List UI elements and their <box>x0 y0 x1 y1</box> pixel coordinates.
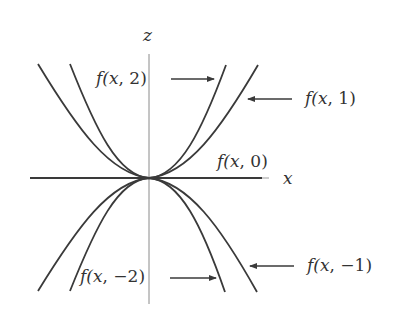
z-label-text: z <box>143 25 152 45</box>
label-f-x-0: f(x, 0) <box>217 153 268 170</box>
z-axis-label: z <box>143 27 152 44</box>
label-f-x-1-var: x <box>318 88 328 108</box>
label-f-x-minus-2-post: , −2) <box>103 266 146 286</box>
label-f-x-0-pre: f( <box>217 151 230 171</box>
label-f-x-0-var: x <box>230 151 240 171</box>
label-f-x-2: f(x, 2) <box>96 70 147 87</box>
curve-f-x-minus-1 <box>38 178 257 292</box>
label-f-x-1-pre: f( <box>305 88 318 108</box>
x-label-text: x <box>283 168 293 188</box>
label-f-x-minus-1-pre: f( <box>307 255 320 275</box>
label-f-x-2-var: x <box>109 68 119 88</box>
label-f-x-0-post: , 0) <box>240 151 268 171</box>
label-f-x-1: f(x, 1) <box>305 90 356 107</box>
x-axis-label: x <box>283 170 293 187</box>
label-f-x-minus-2-var: x <box>93 266 103 286</box>
label-f-x-minus-1-post: , −1) <box>330 255 373 275</box>
label-f-x-1-post: , 1) <box>328 88 356 108</box>
label-f-x-minus-1: f(x, −1) <box>307 257 372 274</box>
label-f-x-minus-2: f(x, −2) <box>80 268 145 285</box>
label-f-x-2-post: , 2) <box>119 68 147 88</box>
label-f-x-minus-1-var: x <box>320 255 330 275</box>
curve-f-x-2 <box>70 64 226 178</box>
label-f-x-2-pre: f( <box>96 68 109 88</box>
label-f-x-minus-2-pre: f( <box>80 266 93 286</box>
